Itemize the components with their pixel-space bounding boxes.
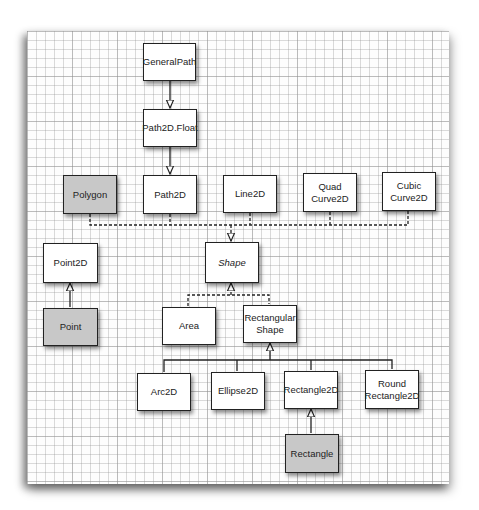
label-line-2: Curve2D [311,193,349,204]
node-label: Path2D [154,189,186,201]
edge-top-implements-bus [90,211,408,225]
node-path2d[interactable]: Path2D [143,175,197,214]
node-rectangle2d[interactable]: Rectangle2D [284,371,338,409]
node-rectangular-shape[interactable]: Rectangular Shape [243,305,297,343]
node-label: Area [179,320,199,332]
node-label: Quad Curve2D [311,181,349,205]
node-path2d-float[interactable]: Path2D.Float [143,109,197,147]
node-point2d[interactable]: Point2D [43,243,98,283]
label-line-2: Rectangle2D [365,390,420,401]
node-ellipse2d[interactable]: Ellipse2D [211,372,265,410]
node-label: Rectangle [291,448,334,460]
node-cubic-curve2d[interactable]: Cubic Curve2D [382,172,436,211]
node-label: Round Rectangle2D [365,378,420,402]
node-label: Cubic Curve2D [390,180,428,204]
label-line-2: Shape [256,324,283,335]
node-label: Arc2D [151,386,177,398]
label-line-2: Curve2D [390,192,428,203]
node-line2d[interactable]: Line2D [223,175,277,213]
label-line-1: Rectangular [244,312,295,323]
label-line-1: Round [378,378,406,389]
label-line-1: Quad [318,181,341,192]
node-label: Rectangle2D [284,384,339,396]
label-line-1: Cubic [397,180,421,191]
node-label: Ellipse2D [218,385,258,397]
node-general-path[interactable]: GeneralPath [143,43,196,81]
edge-rectshape-bus [164,360,392,372]
node-arc2d[interactable]: Arc2D [137,373,191,411]
node-label: Shape [218,257,245,269]
node-label: GeneralPath [143,56,196,68]
node-label: Point [60,321,82,333]
node-quad-curve2d[interactable]: Quad Curve2D [303,173,357,212]
node-shape-interface[interactable]: Shape [205,242,259,283]
node-label: Path2D.Float [142,122,197,134]
node-label: Polygon [73,189,107,201]
node-round-rectangle2d[interactable]: Round Rectangle2D [365,370,419,409]
node-label: Rectangular Shape [244,312,295,336]
node-rectangle[interactable]: Rectangle [285,434,339,473]
node-label: Point2D [54,257,88,269]
node-point[interactable]: Point [43,308,98,346]
node-label: Line2D [235,188,265,200]
node-polygon[interactable]: Polygon [63,175,117,214]
node-area[interactable]: Area [162,307,216,345]
